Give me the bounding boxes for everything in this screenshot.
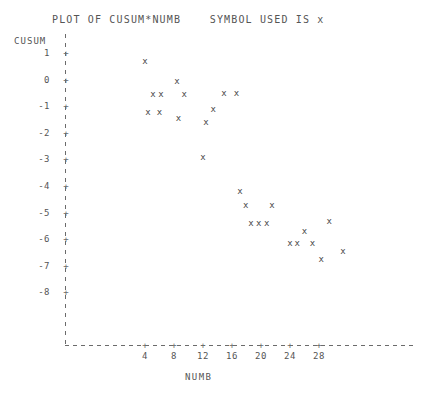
data-point: x <box>263 219 271 228</box>
y-tick-mark: + <box>62 76 70 84</box>
data-point: x <box>255 219 263 228</box>
x-tick-label: 28 <box>309 352 329 361</box>
y-tick-mark: + <box>62 235 70 243</box>
y-tick-mark: + <box>62 49 70 57</box>
x-tick-label: 20 <box>251 352 271 361</box>
x-tick-label: 12 <box>193 352 213 361</box>
data-point: x <box>301 227 309 236</box>
data-point: x <box>174 114 182 123</box>
y-tick-label: -4 <box>16 182 50 190</box>
data-point: x <box>156 108 164 117</box>
x-tick-label: 24 <box>280 352 300 361</box>
y-tick-mark: + <box>62 182 70 190</box>
y-tick-label: -6 <box>16 235 50 243</box>
data-point: x <box>325 217 333 226</box>
data-point: x <box>308 239 316 248</box>
x-axis-label: NUMB <box>185 372 212 382</box>
x-tick-mark: + <box>315 341 323 349</box>
data-point: x <box>141 57 149 66</box>
x-tick-mark: + <box>170 341 178 349</box>
data-point: x <box>339 247 347 256</box>
x-tick-mark: + <box>141 341 149 349</box>
x-tick-label: 8 <box>164 352 184 361</box>
data-point: x <box>144 108 152 117</box>
x-tick-mark: + <box>228 341 236 349</box>
y-tick-mark: + <box>62 129 70 137</box>
data-point: x <box>293 239 301 248</box>
y-tick-mark: + <box>62 288 70 296</box>
x-tick-label: 4 <box>135 352 155 361</box>
data-point: x <box>236 187 244 196</box>
y-tick-mark: + <box>62 155 70 163</box>
y-tick-label: -2 <box>16 129 50 137</box>
data-point: x <box>242 201 250 210</box>
x-axis-line <box>65 345 417 346</box>
data-point: x <box>220 89 228 98</box>
data-point: x <box>173 77 181 86</box>
data-point: x <box>247 219 255 228</box>
y-tick-label: -3 <box>16 155 50 163</box>
y-tick-label: -7 <box>16 262 50 270</box>
data-point: x <box>209 105 217 114</box>
x-tick-mark: + <box>286 341 294 349</box>
x-tick-mark: + <box>199 341 207 349</box>
data-point: x <box>180 90 188 99</box>
y-tick-label: -5 <box>16 209 50 217</box>
y-tick-label: 1 <box>16 49 50 57</box>
x-tick-label: 16 <box>222 352 242 361</box>
scatter-plot: PLOT OF CUSUM*NUMB SYMBOL USED IS x CUSU… <box>0 0 426 397</box>
y-tick-label: -1 <box>16 102 50 110</box>
y-tick-label: 0 <box>16 76 50 84</box>
y-tick-mark: + <box>62 102 70 110</box>
data-point: x <box>202 118 210 127</box>
x-tick-mark: + <box>257 341 265 349</box>
plot-title: PLOT OF CUSUM*NUMB SYMBOL USED IS x <box>52 14 324 25</box>
data-point: x <box>232 89 240 98</box>
y-tick-mark: + <box>62 209 70 217</box>
data-point: x <box>317 255 325 264</box>
y-tick-mark: + <box>62 262 70 270</box>
y-axis-label: CUSUM <box>14 36 46 46</box>
data-point: x <box>157 90 165 99</box>
data-point: x <box>268 201 276 210</box>
data-point: x <box>149 90 157 99</box>
data-point: x <box>199 153 207 162</box>
y-tick-label: -8 <box>16 288 50 296</box>
